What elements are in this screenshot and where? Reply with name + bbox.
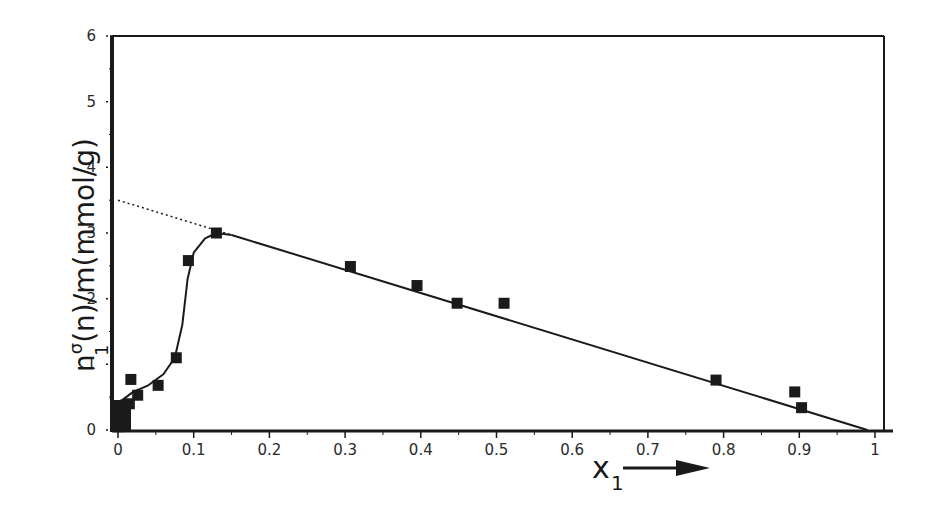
data-point-square xyxy=(796,402,807,413)
arrow-right-icon xyxy=(623,460,710,476)
x-tick-label: 0.8 xyxy=(712,441,736,459)
y-axis-label: nσ(n)/m(mmol/g) 1 xyxy=(65,138,112,372)
data-point-square xyxy=(125,374,136,385)
data-point-square xyxy=(183,255,194,266)
data-point-square xyxy=(711,375,722,386)
x-tick-label: 1 xyxy=(870,441,880,459)
chart: 0123456 00.10.20.30.40.50.60.70.80.91 x … xyxy=(0,0,936,512)
data-point-square xyxy=(153,380,164,391)
data-point-square xyxy=(132,390,143,401)
y-tick-label: 0 xyxy=(86,421,96,439)
data-point-cluster xyxy=(113,400,131,430)
data-point-square xyxy=(789,386,800,397)
data-points xyxy=(113,228,807,433)
fit-curve xyxy=(122,233,232,400)
data-point-square xyxy=(171,352,182,363)
data-point-square xyxy=(211,228,222,239)
x-tick-label: 0.1 xyxy=(182,441,206,459)
y-tick-label: 6 xyxy=(86,27,96,45)
x-tick-label: 0.3 xyxy=(333,441,357,459)
x-label-sub: 1 xyxy=(611,471,624,495)
x-tick-label: 0.7 xyxy=(636,441,660,459)
x-tick-label: 0.9 xyxy=(787,441,811,459)
x-tick-label: 0.5 xyxy=(485,441,509,459)
x-tick-label: 0.2 xyxy=(257,441,281,459)
x-label-main: x xyxy=(592,450,610,485)
y-label-sup: σ xyxy=(65,343,86,354)
plot-curves xyxy=(118,200,867,430)
data-point-square xyxy=(345,261,356,272)
data-point-square xyxy=(452,298,463,309)
x-tick-label: 0.4 xyxy=(409,441,433,459)
linear-fit-line xyxy=(232,235,868,430)
x-tick-label: 0 xyxy=(113,441,123,459)
y-label-sub: 1 xyxy=(91,345,112,356)
data-point-square xyxy=(499,298,510,309)
svg-text:nσ(n)/m(mmol/g): nσ(n)/m(mmol/g) xyxy=(65,138,101,372)
y-tick-label: 5 xyxy=(86,93,96,111)
y-label-rest: (n)/m(mmol/g) xyxy=(68,138,101,343)
x-axis-ticks: 00.10.20.30.40.50.60.70.80.91 xyxy=(113,431,880,459)
x-tick-label: 0.6 xyxy=(560,441,584,459)
data-point-square xyxy=(412,280,423,291)
